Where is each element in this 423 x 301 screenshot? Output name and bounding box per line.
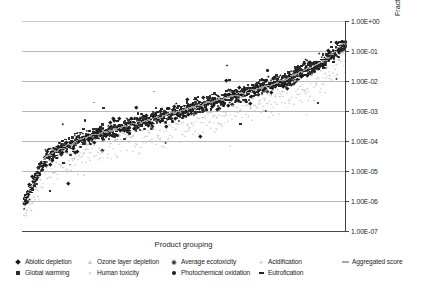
data-point xyxy=(339,46,341,47)
data-point xyxy=(155,107,157,109)
data-point xyxy=(75,142,77,143)
data-point xyxy=(164,118,167,120)
data-point xyxy=(194,130,196,132)
data-point: × xyxy=(239,108,242,111)
legend-item-eutrofication[interactable]: Eutrofication xyxy=(257,269,303,277)
data-point xyxy=(239,123,242,125)
data-point: + xyxy=(197,117,200,120)
data-point xyxy=(102,107,104,109)
data-point xyxy=(317,68,320,70)
data-point: + xyxy=(23,204,26,207)
data-point xyxy=(299,73,302,75)
data-point xyxy=(228,97,230,98)
data-point xyxy=(334,68,336,70)
dash-marker-icon xyxy=(257,269,265,277)
plus-marker-icon: + xyxy=(257,258,265,266)
data-point xyxy=(256,91,259,93)
data-point: × xyxy=(227,106,230,109)
data-point xyxy=(330,41,332,43)
legend-item-abiotic-depletion[interactable]: Abiotic depletion xyxy=(14,258,72,266)
data-point xyxy=(176,117,178,119)
data-point: × xyxy=(111,147,114,150)
data-point xyxy=(279,83,281,84)
data-point xyxy=(314,65,316,66)
data-point xyxy=(322,53,324,55)
data-point xyxy=(93,102,95,103)
data-point: + xyxy=(296,93,299,96)
data-point xyxy=(323,83,325,85)
data-point: + xyxy=(310,74,313,77)
data-point xyxy=(329,51,332,53)
data-point xyxy=(284,102,286,104)
data-point xyxy=(301,101,303,103)
data-point xyxy=(55,157,57,159)
data-point: + xyxy=(215,116,218,119)
data-point: × xyxy=(307,90,310,93)
data-point xyxy=(320,62,322,63)
data-point xyxy=(222,105,224,107)
data-point xyxy=(126,149,128,151)
data-point xyxy=(179,141,181,143)
data-point xyxy=(109,126,112,128)
data-point: + xyxy=(77,154,80,157)
legend-item-label: Global warming xyxy=(25,269,69,277)
legend-item-label: Human toxicity xyxy=(97,269,139,277)
data-point: + xyxy=(254,104,257,107)
data-point xyxy=(38,169,40,170)
data-point xyxy=(132,150,134,152)
legend-item-average-ecotoxicity[interactable]: ✳Average ecotoxicity xyxy=(170,258,236,266)
data-point xyxy=(289,84,292,86)
data-point xyxy=(234,96,237,98)
data-point xyxy=(201,95,205,99)
legend-item-ozone-layer-depletion[interactable]: Ozone layer depletion xyxy=(86,258,159,266)
data-point: × xyxy=(105,156,108,159)
data-point xyxy=(340,48,343,50)
data-point xyxy=(155,143,157,145)
data-point: × xyxy=(317,77,320,80)
legend-item-label: Aggregated score xyxy=(352,258,402,266)
data-point xyxy=(61,140,64,142)
data-point: + xyxy=(102,139,105,142)
data-point xyxy=(278,113,280,115)
data-point xyxy=(333,52,335,53)
data-point xyxy=(61,123,64,126)
legend-item-global-warming[interactable]: Global warming xyxy=(14,269,69,277)
data-point xyxy=(253,90,255,91)
data-point xyxy=(160,108,163,110)
legend-item-acidification[interactable]: +Acidification xyxy=(257,258,302,266)
data-point xyxy=(297,73,299,74)
legend-item-aggregated-score[interactable]: Aggregated score xyxy=(341,258,402,266)
data-point xyxy=(278,76,280,78)
data-point xyxy=(159,129,161,131)
data-point xyxy=(94,128,96,130)
data-point xyxy=(244,99,247,101)
legend-item-photochemical-oxidation[interactable]: Photochemical oxidation xyxy=(170,269,250,277)
data-point xyxy=(313,86,315,88)
data-point xyxy=(113,135,116,137)
data-point: × xyxy=(97,158,100,161)
data-point xyxy=(206,124,208,126)
data-point xyxy=(330,46,333,48)
data-point: + xyxy=(181,121,184,124)
data-point xyxy=(40,167,42,168)
data-point xyxy=(205,109,208,111)
data-point xyxy=(31,185,33,186)
data-point xyxy=(41,169,43,171)
data-point xyxy=(42,200,44,202)
data-point xyxy=(316,64,318,65)
data-point: + xyxy=(168,123,171,126)
data-point xyxy=(76,140,78,141)
data-point: + xyxy=(28,199,31,202)
data-point xyxy=(88,130,91,132)
data-point xyxy=(99,126,102,128)
data-point: + xyxy=(272,89,275,92)
data-point xyxy=(41,164,43,165)
data-point xyxy=(103,148,105,150)
data-point xyxy=(134,105,138,109)
data-point xyxy=(224,102,226,104)
data-point: + xyxy=(229,90,232,93)
triangle-marker-icon xyxy=(86,258,94,266)
data-point xyxy=(176,113,179,115)
data-point xyxy=(51,158,54,160)
legend-item-human-toxicity[interactable]: ×Human toxicity xyxy=(86,269,139,277)
